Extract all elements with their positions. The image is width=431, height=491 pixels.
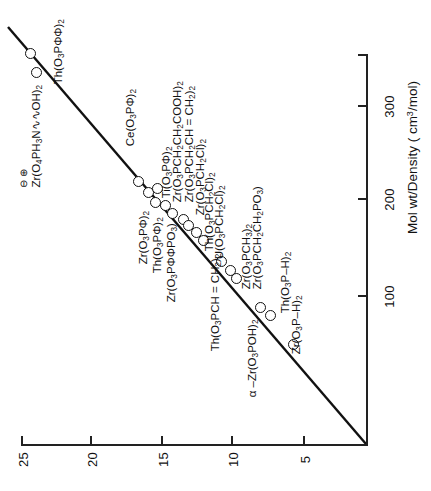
formula-part: N∿∿OH) <box>30 89 42 138</box>
formula-part: PΦΦ) <box>52 24 64 54</box>
data-point-th-o3p-h-2[interactable] <box>265 310 276 321</box>
formula-part: PCH <box>171 150 183 174</box>
data-point-alpha-zr-o3poh-2[interactable] <box>255 302 266 313</box>
subscript: 2 <box>156 217 165 222</box>
formula-part: Zr(O <box>290 331 302 355</box>
subscript: 2 <box>218 186 227 191</box>
data-label-zr-o3p-h-2: Zr(O3P–H)2 <box>290 295 303 354</box>
tick-label-100: 100 <box>382 280 397 314</box>
formula-part: PΦ) <box>151 222 163 243</box>
formula-part: Zr(O <box>137 241 149 265</box>
subscript: 2 <box>129 89 138 94</box>
subscript: 2 <box>284 252 293 257</box>
subscript: 3 <box>170 227 179 232</box>
tick-label-15: 15 <box>156 445 171 475</box>
axis-tick <box>358 295 367 297</box>
formula-part: Zr(O <box>165 279 177 303</box>
formula-part: PΦ) <box>137 215 149 236</box>
formula-part: α –Zr(O <box>246 357 258 397</box>
axis-title-tail: /mol) <box>405 81 420 111</box>
data-label-ce-o3pf-2: Ce(O3PΦ)2 <box>124 89 137 146</box>
subscript: 3 <box>256 190 265 195</box>
data-label-th-o3pf-2: Th(O3PΦ)2 <box>151 217 164 273</box>
tick-label-10: 10 <box>226 445 241 475</box>
subscript: 2 <box>256 211 265 216</box>
axis-title-text: Mol wt/Density ( cm <box>405 116 420 234</box>
data-label-zr-o4ph3n-oh-2: ⊖ ⊕Zr(O4PH3N∿∿OH)2 <box>17 85 42 188</box>
axis-tick <box>358 105 367 107</box>
formula-part: CH <box>171 129 183 146</box>
data-label-zr-o3pch2ch2po3: Zr(O3PCH2CH2PO3) <box>251 186 264 289</box>
subscript: 2 <box>199 158 208 163</box>
formula-part: Th(O <box>52 58 64 84</box>
formula-part: POH) <box>246 324 258 353</box>
subscript: 3 <box>256 261 265 266</box>
subscript: 3 <box>156 243 165 248</box>
axis-tick <box>358 198 367 200</box>
tick-label-25: 25 <box>16 445 31 475</box>
subscript: 3 <box>129 114 138 119</box>
data-label-alpha-zr-o3poh-2: α –Zr(O3POH)2 <box>246 320 259 398</box>
data-point-zr-o3pch2ch2cooh-2[interactable] <box>167 208 178 219</box>
subscript: 3 <box>284 283 293 288</box>
data-label-zr-o3pffpo3: Zr(O3PΦΦPO3) <box>165 223 178 302</box>
subscript: 3 <box>295 326 304 331</box>
subscript: 3 <box>35 139 44 144</box>
subscript: 2 <box>199 139 208 144</box>
subscript: 2 <box>188 94 197 99</box>
subscript: 2 <box>295 295 304 300</box>
formula-part: P–H) <box>290 300 302 326</box>
subscript: 2 <box>251 320 260 325</box>
formula-part: PCH = CH <box>209 267 221 321</box>
formula-part: COOH) <box>171 86 183 124</box>
chart-canvas: 300 200 100 25 20 15 10 5 Mol wt/Density… <box>0 0 431 491</box>
tick-label-300: 300 <box>382 90 397 124</box>
subscript: 3 <box>218 234 227 239</box>
formula-part: Zr(O <box>171 179 183 203</box>
formula-part: PCH <box>251 237 263 261</box>
formula-part: Th(O <box>151 247 163 273</box>
subscript: 3 <box>214 321 223 326</box>
subscript: 4 <box>35 159 44 164</box>
tick-label-20: 20 <box>85 445 100 475</box>
formula-part: Cl) <box>213 190 225 205</box>
subscript: 2 <box>142 211 151 216</box>
data-label-th-o3pff-2: Th(O3PΦΦ)2 <box>52 19 65 84</box>
data-point-zr-o4ph3n-oh-2[interactable] <box>31 67 42 78</box>
formula-part: CH <box>251 216 263 233</box>
formula-part: PH <box>30 143 42 159</box>
formula-part: Cl) <box>194 144 206 159</box>
subscript: 3 <box>142 236 151 241</box>
subscript: 2 <box>218 205 227 210</box>
formula-part: PCH <box>213 209 225 233</box>
data-label-th-o3pch-ch2-2: Th(O3PCH = CH2)2 <box>209 254 222 352</box>
subscript: 3 <box>170 274 179 279</box>
formula-part: Zr(O <box>30 164 42 188</box>
subscript: 3 <box>251 353 260 358</box>
formula-part: Ce(O <box>124 119 136 146</box>
data-label-zr-o3pf-2: Zr(O3PΦ)2 <box>137 211 150 264</box>
formula-part: ) <box>251 186 263 190</box>
subscript: 2 <box>57 19 66 24</box>
formula-part: PΦΦPO <box>165 231 177 274</box>
formula-part: P–H) <box>279 256 291 282</box>
data-label-zr-o3pch2ch2cooh-2: Zr(O3PCH2CH2COOH)2 <box>171 81 184 202</box>
formula-part: Zr(O <box>251 266 263 290</box>
data-label-u-o3pch2cl-2: U(O3PCH2Cl)2 <box>213 186 226 260</box>
formula-part: PO <box>251 194 263 211</box>
subscript: 2 <box>188 86 197 91</box>
subscript: 3 <box>57 54 66 59</box>
subscript: 2 <box>35 85 44 90</box>
data-point-th-o3pff-2[interactable] <box>25 48 36 59</box>
formula-part: PΦ) <box>124 94 136 115</box>
axis-title-exponent: 3 <box>405 111 415 116</box>
axis-tick <box>358 54 367 56</box>
tick-label-5: 5 <box>298 445 313 475</box>
subscript: 2 <box>214 254 223 259</box>
interlayer-distance-axis <box>21 444 367 446</box>
data-point-ce-o3pf-2[interactable] <box>133 176 144 187</box>
subscript: 2 <box>256 232 265 237</box>
mol-wt-density-axis <box>366 54 368 446</box>
formula-part: Th(O <box>209 325 221 351</box>
axis-title-mol-wt-density: Mol wt/Density ( cm3/mol) <box>405 78 420 238</box>
